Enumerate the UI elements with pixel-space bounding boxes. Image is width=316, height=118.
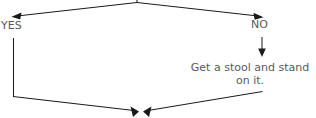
node-stool-step-line-1: Get a stool and stand xyxy=(188,61,312,74)
connector-yes-to-merge xyxy=(13,38,139,117)
branch-label-no: NO xyxy=(251,19,268,31)
branch-label-yes: YES xyxy=(1,20,22,32)
connector-branch-to-no xyxy=(137,3,264,20)
node-stool-step: Get a stool and stand on it. xyxy=(188,61,312,87)
node-stool-step-line-2: on it. xyxy=(188,74,312,87)
connector-branch-to-yes xyxy=(12,3,138,20)
flowchart-canvas: YES NO Get a stool and stand on it. xyxy=(0,0,316,118)
connector-no-to-stool xyxy=(258,37,266,57)
flowchart-connectors xyxy=(0,0,316,118)
connector-stool-to-merge xyxy=(143,92,263,118)
